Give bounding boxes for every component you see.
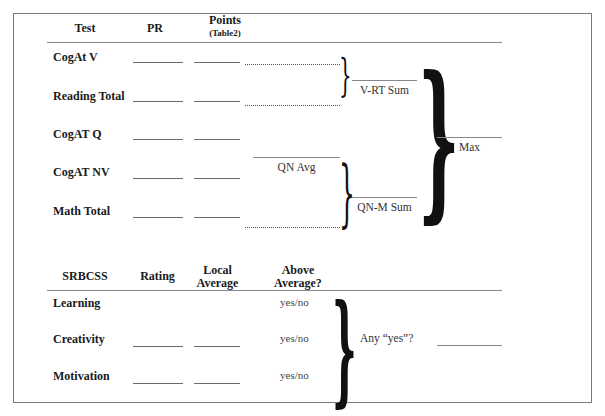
vrt-sum-field[interactable] bbox=[352, 80, 417, 81]
header-test: Test bbox=[55, 22, 115, 35]
header-above-average: Above Average? bbox=[268, 264, 328, 290]
pr-field-math-total[interactable] bbox=[133, 217, 183, 218]
row-label-cogat-v: CogAt V bbox=[53, 50, 98, 65]
section2-header-rule bbox=[47, 290, 502, 291]
qn-avg-field[interactable] bbox=[253, 157, 340, 158]
vrt-connector-top bbox=[245, 64, 340, 65]
header-points-label: Points bbox=[209, 13, 241, 27]
max-brace-icon: } bbox=[418, 54, 460, 224]
rating-field-creativity[interactable] bbox=[133, 346, 183, 347]
header-pr: PR bbox=[130, 22, 180, 35]
pr-field-cogat-q[interactable] bbox=[133, 139, 183, 140]
vrt-sum-label: V-RT Sum bbox=[352, 84, 417, 96]
vrt-connector-bottom bbox=[245, 105, 340, 106]
header-rating: Rating bbox=[130, 270, 185, 283]
pr-field-cogat-nv[interactable] bbox=[133, 178, 183, 179]
max-field[interactable] bbox=[437, 137, 502, 138]
row-label-math-total: Math Total bbox=[53, 204, 110, 219]
header-above-average-line2: Average? bbox=[268, 277, 328, 290]
row-label-reading-total: Reading Total bbox=[53, 89, 125, 104]
row-label-motivation: Motivation bbox=[53, 369, 110, 384]
points-field-math-total[interactable] bbox=[194, 217, 240, 218]
any-yes-label: Any “yes”? bbox=[360, 332, 413, 344]
row-label-creativity: Creativity bbox=[53, 332, 105, 347]
pr-field-reading-total[interactable] bbox=[133, 101, 183, 102]
vrt-brace-icon: } bbox=[339, 54, 352, 98]
row-label-learning: Learning bbox=[53, 296, 100, 311]
yes-no-learning[interactable]: yes/no bbox=[280, 296, 309, 308]
row-label-cogat-nv: CogAT NV bbox=[53, 165, 110, 180]
local-average-field-motivation[interactable] bbox=[194, 383, 240, 384]
header-local-average-line2: Average bbox=[190, 277, 245, 290]
qnm-brace-icon: } bbox=[339, 157, 355, 229]
points-field-cogat-nv[interactable] bbox=[194, 178, 240, 179]
any-yes-brace-icon: } bbox=[332, 288, 357, 408]
pr-field-cogat-v[interactable] bbox=[133, 62, 183, 63]
qnm-connector-bottom bbox=[245, 227, 340, 228]
row-label-cogat-q: CogAT Q bbox=[53, 127, 102, 142]
yes-no-creativity[interactable]: yes/no bbox=[280, 332, 309, 344]
max-label: Max bbox=[437, 141, 502, 153]
points-field-cogat-q[interactable] bbox=[194, 139, 240, 140]
qn-avg-label: QN Avg bbox=[253, 161, 340, 173]
header-points: Points (Table2) bbox=[195, 14, 255, 40]
header-srbcss: SRBCSS bbox=[50, 270, 120, 283]
rating-field-motivation[interactable] bbox=[133, 383, 183, 384]
points-field-reading-total[interactable] bbox=[194, 101, 240, 102]
yes-no-motivation[interactable]: yes/no bbox=[280, 369, 309, 381]
any-yes-field[interactable] bbox=[437, 345, 502, 346]
qnm-sum-label: QN-M Sum bbox=[352, 201, 417, 213]
qnm-sum-field[interactable] bbox=[352, 197, 417, 198]
points-field-cogat-v[interactable] bbox=[194, 62, 240, 63]
header-local-average: Local Average bbox=[190, 264, 245, 290]
header-points-sub: (Table2) bbox=[195, 27, 255, 40]
local-average-field-creativity[interactable] bbox=[194, 346, 240, 347]
